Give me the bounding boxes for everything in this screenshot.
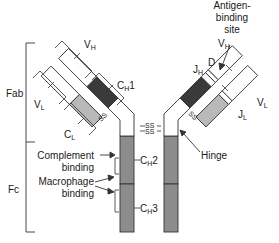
fc-label: Fc [8,184,19,195]
fab-fc-bracket [26,43,35,232]
vh-left-label: VH [84,39,96,51]
hinge-label: Hinge [201,150,228,161]
antibody-svg: Fab Fc VH VL CH1 CL VH D JH VL JL Antige… [0,0,279,243]
ss-inter-2: SS [145,128,155,135]
fc-stem-right [164,136,178,232]
macrophage-binding-line2: binding [62,188,94,199]
vl-right-label: VL [257,97,268,109]
ch3-label: CH3 [140,203,158,215]
fab-label: Fab [6,88,24,99]
antigen-binding-line3: site [224,24,240,35]
d-right-label: D [208,57,215,68]
macrophage-binding-line1: Macrophage [38,176,94,187]
ch2-label: CH2 [140,155,158,167]
vh-right-label: VH [218,38,230,50]
jl-right-label: JL [238,109,247,121]
antigen-binding-line2: binding [216,12,248,23]
cl-left-label: CL [64,129,75,141]
antibody-diagram: Fab Fc VH VL CH1 CL VH D JH VL JL Antige… [0,0,279,243]
fc-stem-left [120,136,134,232]
vl-left-label: VL [34,99,45,111]
complement-binding-line2: binding [62,162,94,173]
complement-binding-line1: Complement [37,150,94,161]
ss-right-arm: SS [187,110,199,122]
antigen-binding-line1: Antigen- [213,0,250,11]
ch1-left-label: CH1 [117,80,135,92]
jh-right-label: JH [193,64,203,76]
